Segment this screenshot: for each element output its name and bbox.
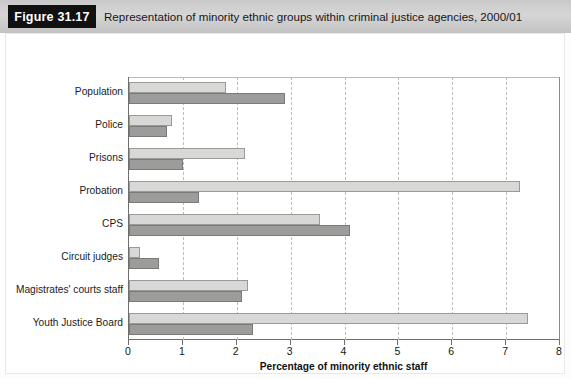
plot-area <box>128 77 559 340</box>
bar-group <box>129 274 559 307</box>
bar-group <box>129 110 559 143</box>
x-tick-label: 4 <box>332 345 356 357</box>
bar-asian <box>129 159 183 170</box>
chart-panel: PopulationPolicePrisonsProbationCPSCircu… <box>5 33 565 374</box>
bar-asian <box>129 225 350 236</box>
bar-asian <box>129 291 242 302</box>
bar-group <box>129 307 559 340</box>
figure-screenshot: Figure 31.17 Representation of minority … <box>0 0 571 379</box>
category-label: CPS <box>102 218 123 229</box>
category-label: Magistrates' courts staff <box>16 284 123 295</box>
bar-black <box>129 115 172 126</box>
bar-black <box>129 148 245 159</box>
x-tick-label: 3 <box>278 345 302 357</box>
bar-black <box>129 82 226 93</box>
category-label: Circuit judges <box>61 251 123 262</box>
x-tick-label: 2 <box>224 345 248 357</box>
bar-group <box>129 143 559 176</box>
x-axis-title: Percentage of minority ethnic staff <box>128 361 559 372</box>
bar-asian <box>129 126 167 137</box>
x-tick-label: 1 <box>170 345 194 357</box>
bar-asian <box>129 324 253 335</box>
bar-asian <box>129 93 285 104</box>
bar-black <box>129 181 520 192</box>
bar-group <box>129 176 559 209</box>
x-tick-label: 0 <box>116 345 140 357</box>
category-label: Youth Justice Board <box>33 317 123 328</box>
bar-asian <box>129 192 199 203</box>
figure-header-band: Figure 31.17 Representation of minority … <box>0 0 571 33</box>
x-tick-label: 6 <box>439 345 463 357</box>
bar-black <box>129 280 248 291</box>
bar-group <box>129 77 559 110</box>
bar-black <box>129 214 320 225</box>
category-label: Prisons <box>89 152 123 163</box>
category-label: Police <box>95 119 123 130</box>
bar-group <box>129 209 559 242</box>
bar-group <box>129 241 559 274</box>
category-axis-labels: PopulationPolicePrisonsProbationCPSCircu… <box>6 77 123 340</box>
x-tick-label: 7 <box>493 345 517 357</box>
bar-black <box>129 313 528 324</box>
plot-frame-right <box>559 77 560 341</box>
category-label: Population <box>75 86 123 97</box>
x-tick-label: 8 <box>547 345 571 357</box>
figure-caption: Representation of minority ethnic groups… <box>104 8 564 25</box>
category-label: Probation <box>79 185 123 196</box>
bar-black <box>129 247 140 258</box>
bar-asian <box>129 258 159 269</box>
figure-number-tag: Figure 31.17 <box>8 5 96 28</box>
x-tick-label: 5 <box>385 345 409 357</box>
